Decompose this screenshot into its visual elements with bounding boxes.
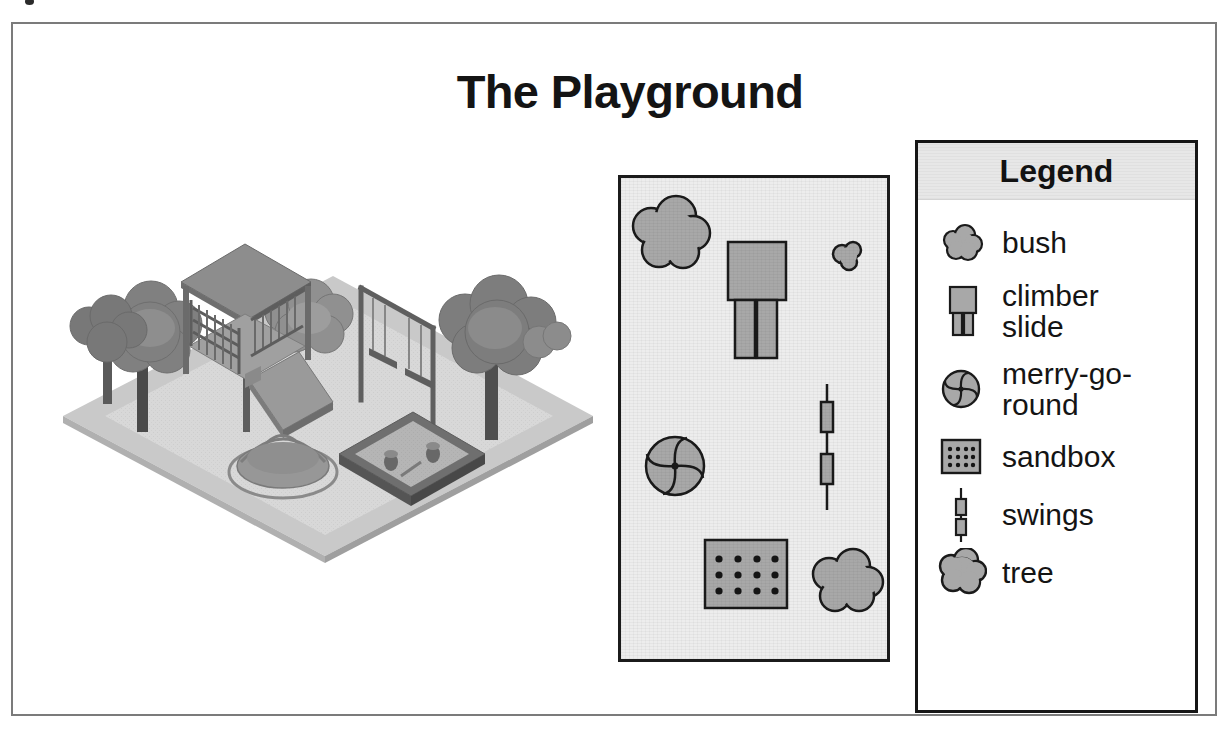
- map-item-climber-slide: [728, 242, 786, 358]
- legend-header-text: Legend: [1000, 153, 1114, 190]
- legend-item-label: bush: [1002, 228, 1067, 258]
- legend-item-label: sandbox: [1002, 442, 1115, 472]
- legend-item-label: merry-go- round: [1002, 358, 1132, 420]
- scan-artifact: [25, 0, 34, 5]
- merry-go-round-icon: [932, 363, 990, 415]
- legend-item-label: climber slide: [1002, 280, 1099, 342]
- legend-item-label: tree: [1002, 558, 1054, 588]
- legend-item-swings[interactable]: swings: [918, 486, 1195, 544]
- page-frame: The Playground: [11, 22, 1217, 716]
- legend: Legend: [915, 140, 1198, 713]
- playground-plan-map: [618, 175, 890, 662]
- climber-slide-icon: [932, 285, 990, 337]
- legend-item-climber-slide[interactable]: climber slide: [918, 272, 1195, 350]
- legend-item-sandbox[interactable]: sandbox: [918, 428, 1195, 486]
- tree-icon: [932, 547, 990, 599]
- legend-item-bush[interactable]: bush: [918, 214, 1195, 272]
- page-title-text: The Playground: [457, 65, 804, 118]
- map-item-swings: [821, 384, 833, 510]
- legend-item-tree[interactable]: tree: [918, 544, 1195, 602]
- swings-icon: [932, 489, 990, 541]
- legend-header: Legend: [918, 143, 1195, 200]
- isometric-playground-illustration: [33, 204, 613, 564]
- page-title: The Playground: [13, 64, 1219, 119]
- legend-item-merry-go-round[interactable]: merry-go- round: [918, 350, 1195, 428]
- bush-icon: [932, 217, 990, 269]
- legend-item-label: swings: [1002, 500, 1094, 530]
- sandbox-icon: [932, 431, 990, 483]
- legend-list: bush climber slide: [918, 200, 1195, 602]
